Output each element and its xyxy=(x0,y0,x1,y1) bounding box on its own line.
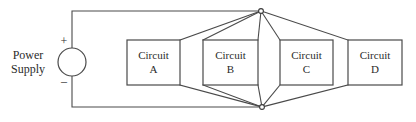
circuit-a-label-line1: Circuit xyxy=(138,49,169,61)
circuit-b-label-line2: B xyxy=(227,63,234,75)
wire-bottom-to-circuit-b-left xyxy=(203,85,262,107)
wire-bottom-to-circuit-a xyxy=(180,85,262,107)
circuit-schematic-canvas: + – Power Supply Circuit A Circuit B Cir… xyxy=(0,0,416,122)
wire-bottom-to-circuit-b-right xyxy=(258,85,262,107)
wire-bottom-to-circuit-d xyxy=(262,85,348,107)
wire-top-to-circuit-c xyxy=(261,11,280,40)
wire-bottom-to-circuit-c xyxy=(262,85,280,107)
top-junction-node xyxy=(259,9,264,14)
schematic-diagram: + – Power Supply Circuit A Circuit B Cir… xyxy=(0,0,416,122)
circuit-d-label-line2: D xyxy=(371,63,379,75)
negative-terminal-label: – xyxy=(60,74,68,88)
circuit-c-label-line1: Circuit xyxy=(291,49,322,61)
circuit-d-label-line1: Circuit xyxy=(360,49,391,61)
circuit-a-label-line2: A xyxy=(150,63,158,75)
positive-terminal-label: + xyxy=(61,34,68,48)
wire-top-to-circuit-b-left xyxy=(203,11,261,40)
power-supply-label-line1: Power xyxy=(13,48,44,62)
power-supply-symbol xyxy=(58,48,86,76)
wire-top-to-circuit-d xyxy=(261,11,348,40)
circuit-c-label-line2: C xyxy=(303,63,310,75)
power-supply-label-line2: Supply xyxy=(11,62,45,76)
wire-top-to-circuit-b-right xyxy=(258,11,261,40)
wire-top-to-circuit-a xyxy=(180,11,261,40)
bottom-junction-node xyxy=(260,105,265,110)
circuit-b-label-line1: Circuit xyxy=(215,49,246,61)
